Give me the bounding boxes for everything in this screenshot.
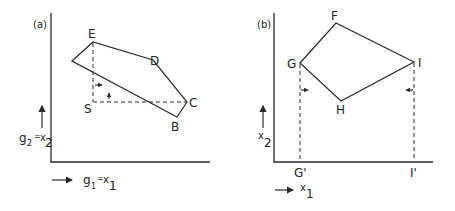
svg-text:g: g bbox=[83, 173, 91, 187]
vertex-label-d: D bbox=[150, 54, 159, 68]
projection-label-i-prime: I' bbox=[410, 166, 417, 180]
diagram-canvas: (a) E D C B S g 2 = x 2 g 1 = bbox=[0, 0, 455, 211]
svg-text:1: 1 bbox=[91, 182, 96, 191]
panel-b-tag: (b) bbox=[257, 19, 271, 30]
svg-text:2: 2 bbox=[27, 139, 32, 148]
vertex-label-h: H bbox=[336, 103, 345, 117]
panel-b: (b) F G I H G' I' x 2 x 1 bbox=[257, 9, 433, 201]
vertex-label-s: S bbox=[84, 102, 92, 116]
svg-text:1: 1 bbox=[306, 187, 314, 201]
svg-text:2: 2 bbox=[45, 136, 53, 150]
vertex-label-b: B bbox=[171, 120, 179, 134]
svg-text:g: g bbox=[19, 131, 27, 145]
vertex-label-e: E bbox=[88, 27, 96, 41]
panel-a-axes bbox=[51, 13, 210, 162]
panel-b-y-axis-label: x 2 bbox=[258, 130, 272, 150]
svg-text:1: 1 bbox=[109, 179, 117, 193]
panel-a-y-axis-label: g 2 = x 2 bbox=[19, 131, 53, 150]
vertex-label-g: G bbox=[287, 57, 296, 71]
vertex-label-f: F bbox=[331, 9, 338, 23]
projection-label-g-prime: G' bbox=[294, 166, 307, 180]
svg-text:2: 2 bbox=[264, 136, 272, 150]
panel-b-axes bbox=[274, 13, 433, 162]
panel-b-x-axis-label: x 1 bbox=[300, 182, 314, 201]
panel-a-x-axis-label: g 1 = x 1 bbox=[83, 173, 117, 193]
vertex-label-c: C bbox=[189, 96, 197, 110]
panel-a: (a) E D C B S g 2 = x 2 g 1 = bbox=[19, 13, 210, 193]
panel-b-feasible-polygon bbox=[300, 23, 414, 101]
vertex-label-i: I bbox=[418, 56, 422, 70]
panel-a-tag: (a) bbox=[33, 19, 47, 30]
